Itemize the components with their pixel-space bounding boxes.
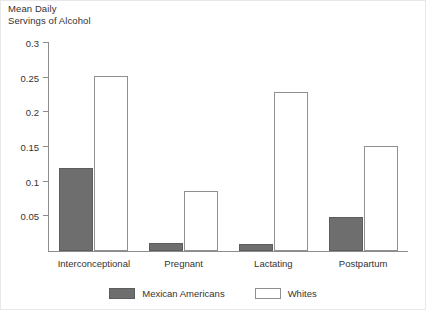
x-axis-category-label: Pregnant <box>164 258 203 269</box>
bar-whites[interactable] <box>184 191 218 251</box>
legend-swatch-whites <box>255 288 281 299</box>
chart-page: Mean Daily Servings of Alcohol 0.050.10.… <box>0 0 426 310</box>
y-axis-tick-label: 0.25 <box>21 72 40 83</box>
bar-whites[interactable] <box>364 146 398 251</box>
y-axis-tick-label: 0.15 <box>21 142 40 153</box>
x-axis-category-label: Postpartum <box>339 258 388 269</box>
chart-title-line-2: Servings of Alcohol <box>8 15 91 27</box>
bar-mexican-americans[interactable] <box>329 217 363 251</box>
bar-mexican-americans[interactable] <box>59 168 93 251</box>
chart-title: Mean Daily Servings of Alcohol <box>8 3 91 26</box>
chart-legend: Mexican Americans Whites <box>0 288 426 299</box>
bar-group: Pregnant <box>139 43 229 251</box>
legend-item-mexican-americans[interactable]: Mexican Americans <box>109 288 224 299</box>
bar-group: Lactating <box>229 43 319 251</box>
y-axis-tick-label: 0.2 <box>26 107 39 118</box>
bar-group: Postpartum <box>318 43 408 251</box>
y-axis-tick-label: 0.05 <box>21 211 40 222</box>
y-axis-tick-label: 0.1 <box>26 176 39 187</box>
bar-mexican-americans[interactable] <box>239 244 273 251</box>
legend-label-mexican-americans: Mexican Americans <box>142 288 224 299</box>
chart-title-line-1: Mean Daily <box>8 3 91 15</box>
bar-group: Interconceptional <box>49 43 139 251</box>
bar-mexican-americans[interactable] <box>149 243 183 251</box>
bar-whites[interactable] <box>94 76 128 251</box>
x-axis-category-label: Lactating <box>254 258 293 269</box>
x-axis-category-label: Interconceptional <box>58 258 130 269</box>
bar-whites[interactable] <box>274 92 308 251</box>
y-axis-tick-label: 0.3 <box>26 38 39 49</box>
legend-swatch-mexican-americans <box>109 288 135 299</box>
legend-item-whites[interactable]: Whites <box>255 288 317 299</box>
legend-label-whites: Whites <box>288 288 317 299</box>
plot-area: 0.050.10.150.20.250.3InterconceptionalPr… <box>48 43 408 252</box>
